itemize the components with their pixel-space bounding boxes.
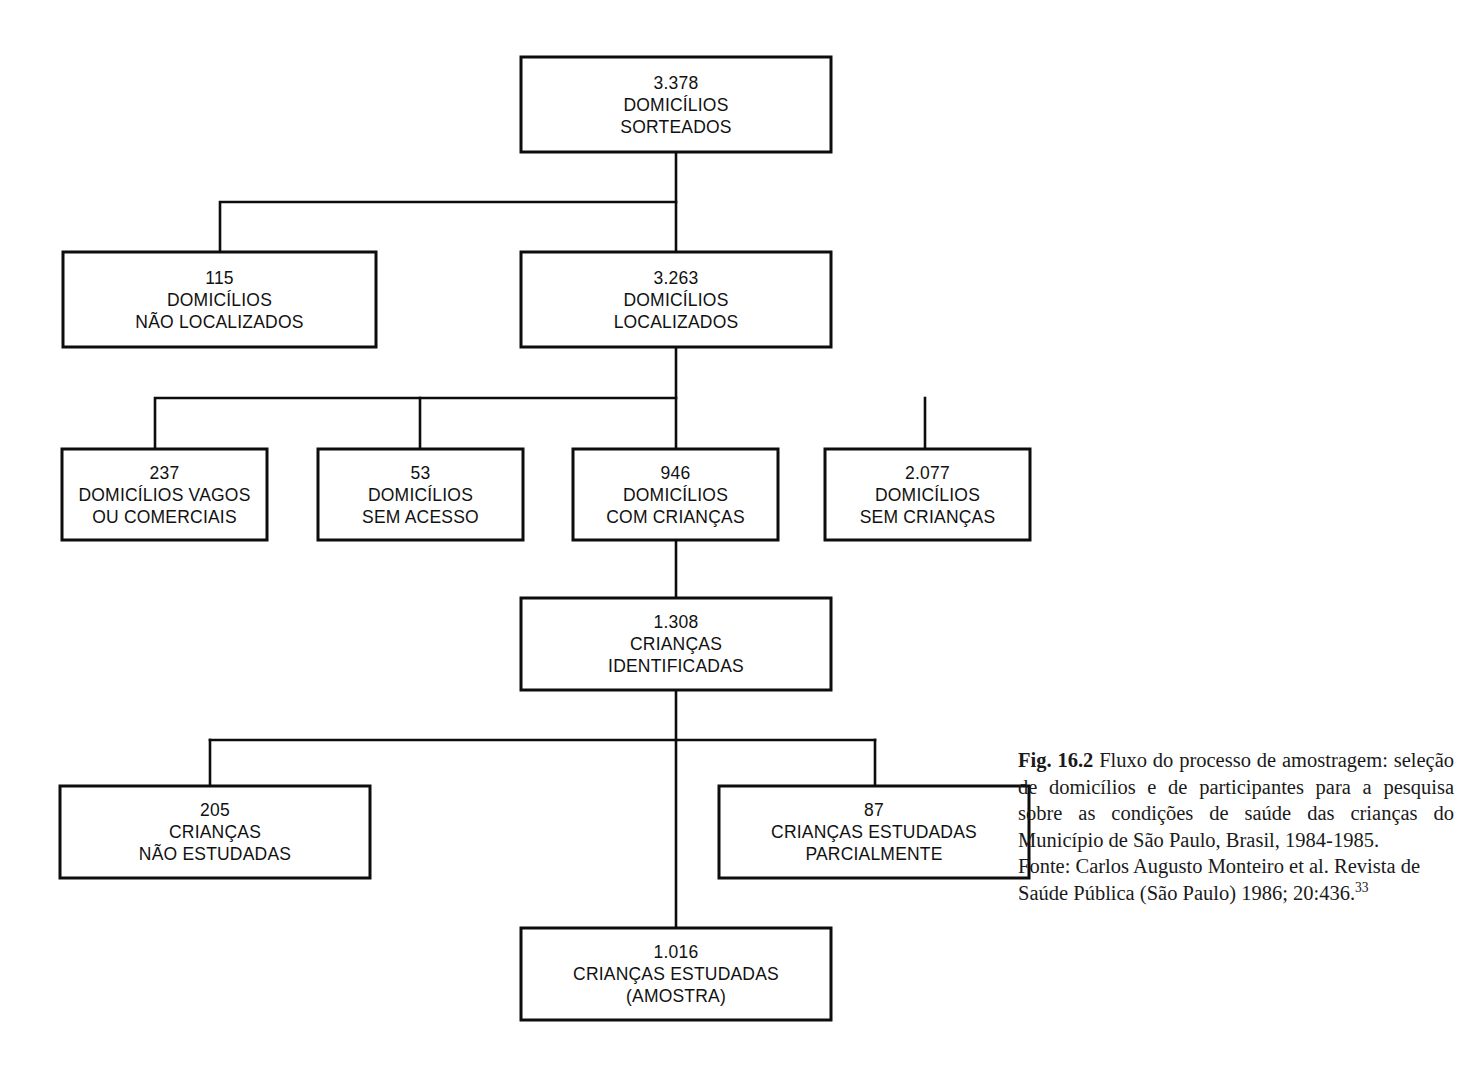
flow-node-vagos: 237DOMICÍLIOS VAGOSOU COMERCIAIS (62, 449, 267, 540)
flow-node-amostra: 1.016CRIANÇAS ESTUDADAS(AMOSTRA) (521, 928, 831, 1020)
node-label-line: LOCALIZADOS (614, 312, 739, 332)
node-value: 87 (864, 800, 884, 820)
figure-page: 3.378DOMICÍLIOSSORTEADOS115DOMICÍLIOSNÃO… (0, 0, 1469, 1083)
node-label-line: DOMICÍLIOS (167, 290, 272, 310)
figure-source: Fonte: Carlos Augusto Monteiro et al. Re… (1018, 853, 1454, 906)
flow-node-sorteados: 3.378DOMICÍLIOSSORTEADOS (521, 57, 831, 152)
sampling-flowchart: 3.378DOMICÍLIOSSORTEADOS115DOMICÍLIOSNÃO… (0, 0, 1060, 1083)
node-label-line: NÃO LOCALIZADOS (135, 311, 303, 332)
node-value: 1.016 (654, 942, 699, 962)
node-value: 205 (200, 800, 230, 820)
node-label-line: CRIANÇAS (630, 634, 722, 654)
figure-number: Fig. 16.2 (1018, 749, 1093, 771)
node-value: 3.378 (654, 73, 699, 93)
flow-node-nao-localizados: 115DOMICÍLIOSNÃO LOCALIZADOS (63, 252, 376, 347)
flow-node-sem-acesso: 53DOMICÍLIOSSEM ACESSO (318, 449, 523, 540)
flow-connector (155, 398, 676, 449)
node-label-line: DOMICÍLIOS (875, 485, 980, 505)
node-label-line: (AMOSTRA) (626, 986, 726, 1006)
flow-node-com-criancas: 946DOMICÍLIOSCOM CRIANÇAS (573, 449, 778, 540)
flow-connector (220, 202, 676, 252)
node-label-line: NÃO ESTUDADAS (139, 843, 291, 864)
node-label-line: SORTEADOS (620, 117, 731, 137)
node-label-line: SEM ACESSO (362, 507, 479, 527)
node-label-line: DOMICÍLIOS VAGOS (78, 485, 250, 505)
flow-node-identificadas: 1.308CRIANÇASIDENTIFICADAS (521, 598, 831, 690)
node-label-line: DOMICÍLIOS (623, 95, 728, 115)
node-label-line: DOMICÍLIOS (368, 485, 473, 505)
flow-node-parcialmente: 87CRIANÇAS ESTUDADASPARCIALMENTE (719, 786, 1029, 878)
node-label-line: CRIANÇAS (169, 822, 261, 842)
figure-source-reference: 33 (1355, 880, 1369, 895)
node-value: 946 (661, 463, 691, 483)
node-label-line: CRIANÇAS ESTUDADAS (573, 964, 779, 984)
node-value: 237 (150, 463, 180, 483)
node-value: 2.077 (905, 463, 950, 483)
figure-caption: Fig. 16.2 Fluxo do processo de amostrage… (1018, 747, 1454, 906)
node-label-line: IDENTIFICADAS (608, 656, 744, 676)
node-label-line: PARCIALMENTE (805, 844, 942, 864)
node-label-line: OU COMERCIAIS (92, 507, 237, 527)
node-value: 1.308 (654, 612, 699, 632)
flow-node-sem-criancas: 2.077DOMICÍLIOSSEM CRIANÇAS (825, 449, 1030, 540)
flow-node-nao-estudadas: 205CRIANÇASNÃO ESTUDADAS (60, 786, 370, 878)
node-label-line: SEM CRIANÇAS (860, 507, 996, 527)
node-value: 115 (205, 268, 234, 288)
node-label-line: COM CRIANÇAS (606, 507, 745, 527)
node-label-line: DOMICÍLIOS (623, 290, 728, 310)
node-label-line: DOMICÍLIOS (623, 485, 728, 505)
node-label-line: CRIANÇAS ESTUDADAS (771, 822, 977, 842)
node-value: 53 (411, 463, 431, 483)
flow-node-localizados: 3.263DOMICÍLIOSLOCALIZADOS (521, 252, 831, 347)
node-value: 3.263 (654, 268, 699, 288)
